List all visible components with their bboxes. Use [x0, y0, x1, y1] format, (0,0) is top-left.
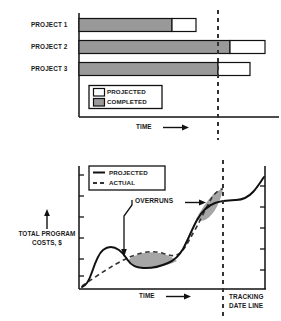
gantt-bar-projected-project-2 — [230, 41, 265, 54]
projected-cost-curve — [82, 177, 264, 287]
gantt-bar-project-2[interactable] — [79, 41, 265, 54]
gantt-bar-completed-project-2 — [79, 41, 230, 54]
scurve-legend-label-projected: PROJECTED — [109, 170, 148, 177]
scurve-x-axis-label: TIME — [139, 293, 155, 300]
overruns-leader-2 — [185, 200, 206, 206]
gantt-x-axis-label: TIME — [136, 124, 152, 131]
scurve-y-arrow-icon — [44, 209, 50, 229]
gantt-row-label-project-2: PROJECT 2 — [31, 44, 67, 51]
tracking-date-line-label-line2: DATE LINE — [229, 302, 263, 311]
gantt-bar-completed-project-3 — [79, 63, 218, 76]
overruns-leader-1 — [121, 200, 132, 257]
gantt-bar-project-1[interactable] — [79, 19, 196, 32]
gantt-row-label-project-1: PROJECT 1 — [31, 22, 67, 29]
gantt-legend-swatch-completed — [94, 99, 105, 107]
tracking-date-line-label-line1: TRACKING — [229, 293, 264, 302]
gantt-bar-projected-project-1 — [172, 19, 196, 32]
program-status-figure: PROJECT 1 PROJECT 2 PROJECT 3 PROJECTED … — [0, 0, 281, 321]
gantt-legend-label-projected: PROJECTED — [107, 89, 146, 96]
scurve-y-axis-label-line2: COSTS, $ — [8, 240, 86, 247]
gantt-chart — [79, 10, 279, 140]
scurve-y-axis-label-line1: TOTAL PROGRAM — [8, 231, 86, 238]
gantt-time-arrow — [163, 125, 189, 131]
scurve-time-arrow — [166, 294, 191, 300]
gantt-row-label-project-3: PROJECT 3 — [31, 66, 67, 73]
gantt-bar-projected-project-3 — [218, 63, 250, 76]
gantt-legend-label-completed: COMPLETED — [107, 99, 147, 106]
gantt-bar-completed-project-1 — [79, 19, 172, 32]
overruns-annotation-label: OVERRUNS — [135, 197, 173, 204]
gantt-bar-project-3[interactable] — [79, 63, 250, 76]
gantt-legend-swatch-projected — [94, 89, 105, 97]
scurve-legend-label-actual: ACTUAL — [109, 180, 135, 187]
